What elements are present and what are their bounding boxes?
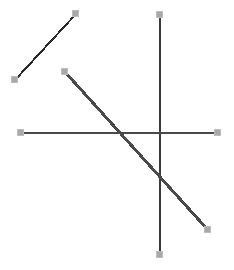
- segment-main-diagonal[interactable]: [65, 72, 208, 230]
- handle-seg3-end[interactable]: [214, 129, 221, 136]
- handle-seg3-start[interactable]: [17, 129, 24, 136]
- handle-seg2-end[interactable]: [156, 251, 163, 258]
- handle-seg2-start[interactable]: [156, 11, 163, 18]
- line-segment-canvas[interactable]: [0, 0, 234, 270]
- handle-seg1-start[interactable]: [11, 76, 18, 83]
- handle-seg4-end[interactable]: [204, 226, 211, 233]
- line-layer: [0, 0, 234, 270]
- handle-seg1-end[interactable]: [72, 10, 79, 17]
- handle-seg4-start[interactable]: [61, 68, 68, 75]
